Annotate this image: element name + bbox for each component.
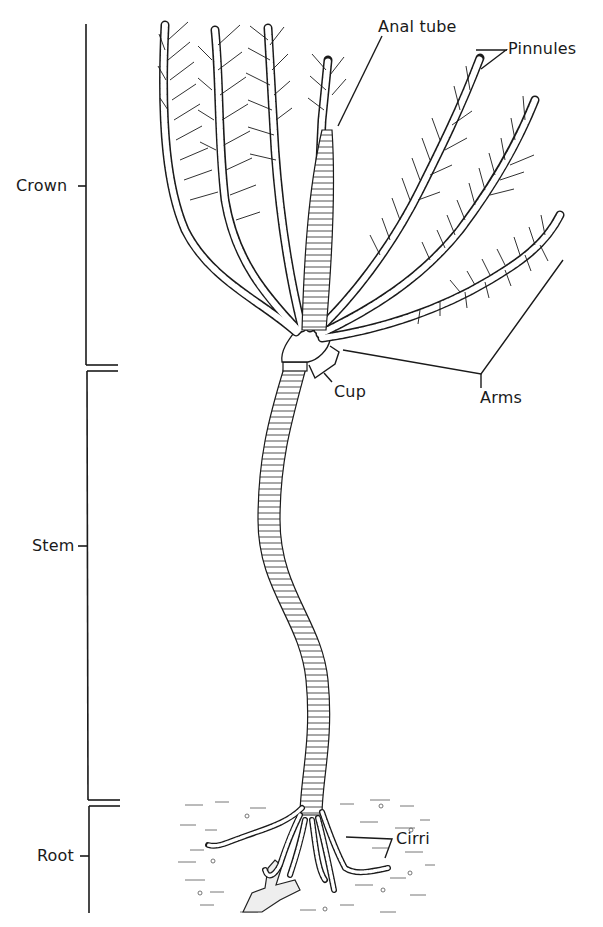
root-bracket <box>80 806 120 913</box>
pinnules-label: Pinnules <box>508 40 576 58</box>
crinoid-diagram: Crown Stem Root Anal tube Pinnules Cup A… <box>0 0 603 927</box>
root-label: Root <box>37 847 74 865</box>
stem <box>258 362 330 815</box>
crinoid-illustration <box>0 0 603 927</box>
stem-label: Stem <box>32 537 75 555</box>
arms <box>164 25 560 338</box>
cup-label: Cup <box>334 383 366 401</box>
sediment <box>178 800 435 912</box>
arms-label: Arms <box>480 389 522 407</box>
crown-bracket <box>78 24 118 365</box>
anal-tube <box>302 130 334 330</box>
cirri-label: Cirri <box>396 830 430 848</box>
stem-bracket <box>78 371 120 800</box>
anal-tube-label: Anal tube <box>378 18 457 36</box>
crown-label: Crown <box>16 177 67 195</box>
